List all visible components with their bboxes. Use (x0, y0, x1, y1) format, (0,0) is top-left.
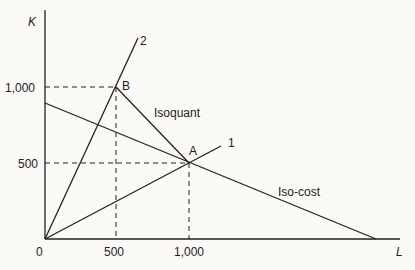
ray-1 (45, 146, 221, 239)
ray-2-label: 2 (140, 34, 147, 48)
x-tick-500: 500 (104, 245, 124, 259)
ray-2 (45, 38, 138, 239)
isocost-label: Iso-cost (278, 185, 321, 199)
isoquant-diagram: K L 0 500 1,000 1,000 500 B A 2 1 Isoqua… (0, 0, 415, 270)
x-tick-1000: 1,000 (174, 245, 204, 259)
l-axis-label: L (396, 245, 403, 259)
y-tick-1000: 1,000 (5, 81, 35, 95)
ray-1-label: 1 (228, 136, 235, 150)
y-tick-500: 500 (18, 157, 38, 171)
point-a-label: A (189, 144, 197, 158)
isocost-line (45, 103, 376, 239)
origin-label: 0 (36, 245, 43, 259)
isoquant-line (116, 87, 189, 163)
point-b-label: B (122, 79, 130, 93)
isoquant-label: Isoquant (154, 106, 201, 120)
k-axis-label: K (28, 15, 37, 29)
